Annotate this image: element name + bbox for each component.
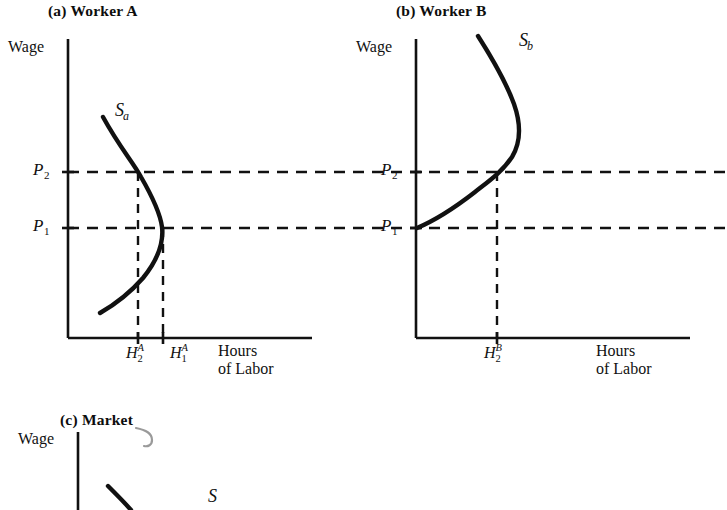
panel-a-p1-base: P — [33, 216, 43, 235]
panel-b-curve-label: Sb — [519, 30, 534, 51]
panel-a-p1-sub: 1 — [44, 225, 50, 237]
panel-a-p2-label: P2 — [33, 160, 49, 180]
panel-b-p2-sub: 2 — [392, 169, 398, 181]
panel-a-curve-label: Sa — [115, 100, 130, 121]
wage-reference-lines — [68, 172, 727, 228]
panel-c-curve-label-base: S — [208, 486, 217, 506]
panel-b-p2-base: P — [381, 160, 391, 179]
panel-b-h2b-base: H — [484, 344, 496, 361]
panel-a-h2a-label: HA2 — [126, 344, 149, 362]
panel-c-y-axis-label: Wage — [18, 430, 54, 448]
panel-b-title: (b) Worker B — [396, 2, 487, 20]
panel-a-curve-label-sub: a — [123, 109, 129, 123]
panel-a-p2-base: P — [33, 160, 43, 179]
panel-b-p1-base: P — [381, 216, 391, 235]
panel-a-x-axis-label: Hours of Labor — [218, 342, 274, 378]
diagram-vector-layer — [0, 0, 727, 510]
panel-b-y-axis-label: Wage — [356, 38, 392, 56]
panel-a-h1a-sub: 1 — [181, 353, 186, 364]
panel-c-supply-curve — [108, 486, 131, 510]
panel-c-title: (c) Market — [60, 411, 133, 429]
panel-a-x-axis-label-line1: Hours — [218, 342, 257, 359]
panel-a-h1a-base: H — [170, 344, 182, 361]
panel-b-axes — [410, 39, 690, 344]
panel-a-h1a-sup: A — [182, 342, 188, 353]
panel-b-p1-sub: 1 — [392, 225, 398, 237]
panel-b-curve-label-sub: b — [527, 39, 533, 53]
panel-c-curve-label: S — [208, 486, 217, 507]
panel-a-h2a-base: H — [126, 344, 138, 361]
panel-b-p1-label: P1 — [381, 216, 397, 236]
panel-a-h2a-sup: A — [138, 342, 144, 353]
panel-a-h2a-sub: 2 — [137, 353, 142, 364]
figure-canvas: (a) Worker A Wage P2 P1 HA2 HA1 Hours of… — [0, 0, 727, 510]
panel-b-supply-curve — [417, 36, 519, 228]
panel-a-h1a-label: HA1 — [170, 344, 193, 362]
panel-a-supply-curve — [100, 117, 162, 313]
panel-b-x-axis-label: Hours of Labor — [596, 342, 652, 378]
panel-a-y-axis-label: Wage — [8, 38, 44, 56]
panel-b-h2b-sub: 2 — [495, 353, 500, 364]
panel-b-h2b-sup: B — [496, 342, 502, 353]
panel-a-x-axis-label-line2: of Labor — [218, 360, 274, 377]
panel-a-title: (a) Worker A — [48, 2, 138, 20]
panel-a-axes — [62, 39, 312, 344]
panel-c-scan-artifact — [136, 428, 152, 446]
panel-a-p2-sub: 2 — [44, 169, 50, 181]
panel-b-x-axis-label-line2: of Labor — [596, 360, 652, 377]
panel-b-p2-label: P2 — [381, 160, 397, 180]
panel-b-x-axis-label-line1: Hours — [596, 342, 635, 359]
panel-b-h2b-label: HB2 — [484, 344, 507, 362]
panel-a-p1-label: P1 — [33, 216, 49, 236]
